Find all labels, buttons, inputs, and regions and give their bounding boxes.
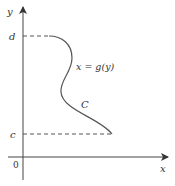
tick-label-d: d (9, 31, 15, 42)
diagram-canvas: y x 0 d c x = g(y) C (0, 0, 175, 186)
curve-name-label: C (81, 99, 89, 110)
curve-c (49, 36, 112, 134)
tick-label-c: c (10, 129, 16, 140)
origin-label: 0 (13, 160, 19, 170)
curve-equation-label: x = g(y) (76, 61, 115, 72)
y-axis-label: y (6, 6, 13, 17)
x-axis-label: x (160, 163, 166, 174)
